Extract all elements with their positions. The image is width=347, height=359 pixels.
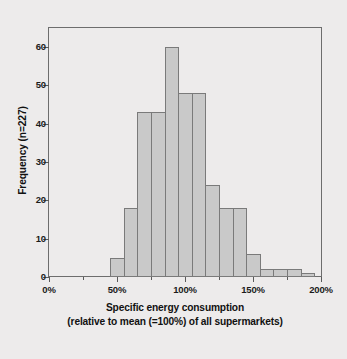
x-axis-tick-label: 200% — [301, 284, 341, 295]
histogram-bar — [165, 47, 180, 277]
y-axis-tick-label: 60 — [36, 42, 46, 52]
histogram-bar — [151, 112, 166, 277]
histogram-bar — [233, 208, 248, 277]
x-axis-title-line1: Specific energy consumption — [20, 301, 330, 315]
y-axis-tick-label: 30 — [36, 157, 46, 167]
histogram-bar — [124, 208, 139, 277]
histogram-figure: 01020304050600%50%100%150%200% Specific … — [0, 0, 347, 359]
y-axis-tick-label: 10 — [36, 234, 46, 244]
histogram-bar — [273, 269, 288, 277]
histogram-bar — [205, 185, 220, 277]
x-axis-tick-mark — [49, 277, 50, 282]
x-axis-title-line2: (relative to mean (=100%) of all superma… — [20, 315, 330, 329]
x-axis-tick-label: 50% — [97, 284, 137, 295]
x-axis-tick-label: 100% — [165, 284, 205, 295]
histogram-bar — [178, 93, 193, 277]
y-axis-tick-label: 0 — [41, 272, 46, 282]
x-axis-minor-tick-mark — [151, 277, 152, 280]
x-axis-tick-mark — [253, 277, 254, 282]
x-axis-minor-tick-mark — [83, 277, 84, 280]
x-axis-title: Specific energy consumption (relative to… — [20, 301, 330, 328]
histogram-bar — [110, 258, 125, 277]
histogram-bar — [219, 208, 234, 277]
x-axis-tick-label: 0% — [29, 284, 69, 295]
x-axis-tick-mark — [321, 277, 322, 282]
histogram-bar — [246, 254, 261, 277]
x-axis-minor-tick-mark — [287, 277, 288, 280]
x-axis-tick-mark — [185, 277, 186, 282]
y-axis-tick-label: 50 — [36, 80, 46, 90]
y-axis-tick-label: 20 — [36, 195, 46, 205]
y-axis-tick-label: 40 — [36, 119, 46, 129]
y-axis-title: Frequency (n=227) — [17, 71, 28, 231]
x-axis-minor-tick-mark — [219, 277, 220, 280]
histogram-bar — [287, 269, 302, 277]
histogram-bar — [137, 112, 152, 277]
histogram-bar — [192, 93, 207, 277]
x-axis-tick-mark — [117, 277, 118, 282]
histogram-bar — [260, 269, 275, 277]
x-axis-tick-label: 150% — [233, 284, 273, 295]
histogram-bar — [301, 273, 316, 277]
